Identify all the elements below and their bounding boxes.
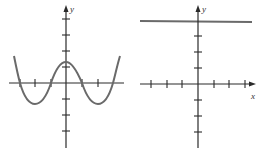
left-graph: y (9, 4, 124, 148)
figure-canvas: y x y (0, 0, 256, 161)
right-y-arrow-icon (196, 5, 201, 12)
left-curve (14, 56, 120, 104)
left-y-label: y (69, 4, 74, 14)
right-horizontal-line (140, 21, 252, 22)
right-graph: x y (140, 4, 256, 148)
right-y-label: y (201, 4, 206, 14)
left-y-arrow-icon (64, 5, 69, 12)
right-x-arrow-icon (249, 82, 256, 87)
right-x-label: x (250, 91, 255, 101)
